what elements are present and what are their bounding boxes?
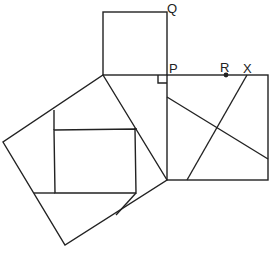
label-p: P [169, 62, 178, 75]
inner-square [54, 129, 136, 193]
small-square [103, 12, 167, 75]
label-q: Q [167, 2, 177, 15]
label-r: R [220, 61, 229, 74]
pinwheel-line-4 [116, 193, 136, 215]
label-x: X [243, 62, 252, 75]
right-angle-marker [158, 75, 167, 83]
cut-line-2 [187, 75, 247, 180]
hypotenuse-square [3, 75, 167, 245]
pythagoras-diagram [0, 0, 273, 254]
